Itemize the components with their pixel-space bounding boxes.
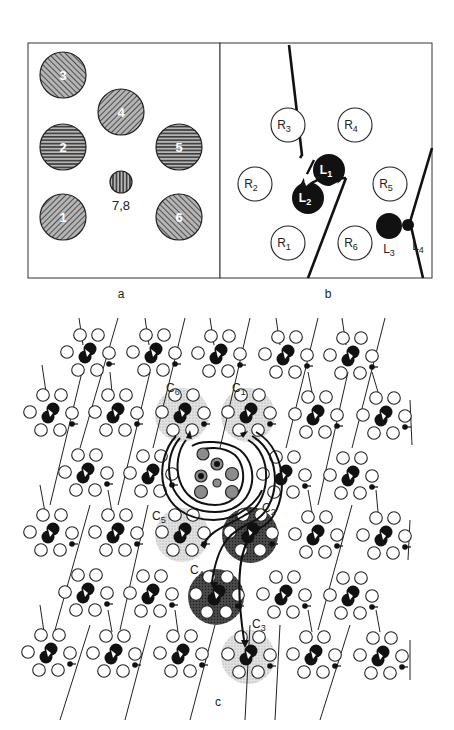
panel-c: C6 C1 C5 C2 C4 C3 c <box>22 318 412 720</box>
central-cluster <box>195 448 239 499</box>
label-c1: C1 <box>232 381 246 397</box>
panel-b-label: b <box>325 287 332 301</box>
receptor-r2: R2 <box>238 167 272 201</box>
circle-2: 2 <box>40 124 86 170</box>
panel-c-label: c <box>215 695 221 709</box>
svg-text:2: 2 <box>59 140 66 155</box>
label-c6: C6 <box>166 381 180 397</box>
ligand-l2: L2 <box>292 182 324 214</box>
receptor-r5: R5 <box>373 167 407 201</box>
circle-3: 3 <box>40 52 86 98</box>
label-c4: C4 <box>190 563 204 579</box>
svg-text:4: 4 <box>117 105 125 120</box>
circle-5: 5 <box>156 124 202 170</box>
svg-text:7,8: 7,8 <box>112 198 130 213</box>
circle-4: 4 <box>98 89 144 135</box>
label-c2: C2 <box>262 501 276 517</box>
circle-6: 6 <box>156 194 202 240</box>
label-c5: C5 <box>152 509 166 525</box>
svg-text:1: 1 <box>59 210 66 225</box>
panel-b: R3 R4 R2 R5 R1 R6 L1 L2 <box>220 43 432 301</box>
receptor-r4: R4 <box>338 108 372 142</box>
receptor-r1: R1 <box>271 226 305 260</box>
receptor-r6: R6 <box>338 226 372 260</box>
panel-a: 3 4 2 5 7,8 1 6 a <box>28 43 220 301</box>
label-c3: C3 <box>252 617 266 633</box>
svg-text:5: 5 <box>175 140 182 155</box>
figure: 3 4 2 5 7,8 1 6 a <box>0 0 454 730</box>
receptor-r3: R3 <box>271 108 305 142</box>
svg-text:3: 3 <box>59 68 66 83</box>
circle-1: 1 <box>40 194 86 240</box>
panel-a-label: a <box>118 287 125 301</box>
svg-text:6: 6 <box>175 210 182 225</box>
